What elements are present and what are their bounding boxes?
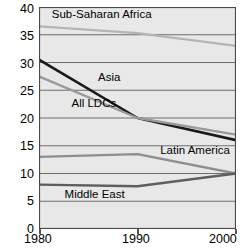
y-axis-labels: 40 35 30 25 20 15 10 5 0 [0,0,36,252]
series-label-latin-america: Latin America [160,145,230,157]
x-tick-1980: 1980 [24,233,52,246]
series-label-asia: Asia [98,72,120,84]
y-tick-25: 25 [0,85,34,98]
series-label-middle-east: Middle East [65,189,125,201]
y-tick-40: 40 [0,3,34,16]
x-tick-2000: 2000 [209,233,237,246]
series-label-sub-saharan-africa: Sub-Saharan Africa [52,9,152,21]
y-tick-20: 20 [0,113,34,126]
y-tick-5: 5 [0,195,34,208]
plot-area: Sub-Saharan Africa Asia All LDCs Latin A… [39,7,236,229]
y-tick-35: 35 [0,30,34,43]
y-tick-15: 15 [0,140,34,153]
y-tick-30: 30 [0,58,34,71]
series-label-all-ldcs: All LDCs [72,98,117,110]
line-chart: 40 35 30 25 20 15 10 5 0 Sub-Saharan Afr… [0,0,247,252]
x-tick-1990: 1990 [122,233,150,246]
y-tick-10: 10 [0,168,34,181]
